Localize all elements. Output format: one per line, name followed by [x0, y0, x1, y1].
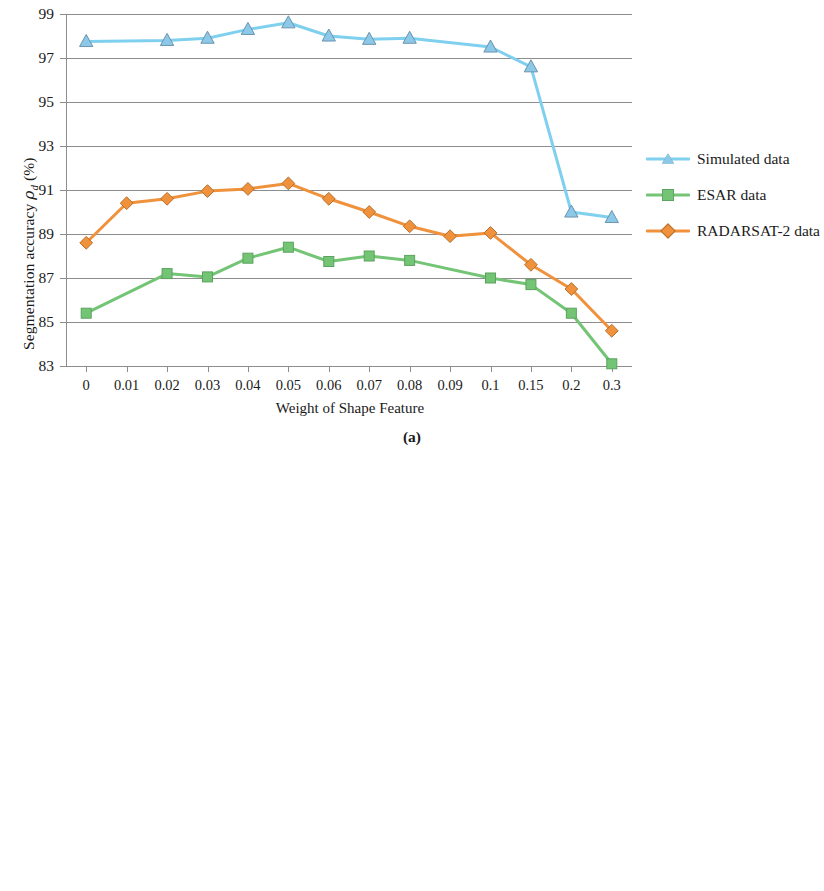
- chart-a-marker-esar: [81, 308, 91, 318]
- chart-a-y-tick-label: 91: [39, 182, 55, 198]
- chart-a-marker-esar: [283, 242, 293, 252]
- chart-a-plot-area: 83858789919395979900.010.020.030.040.050…: [66, 14, 632, 366]
- legend-item-simulated[interactable]: Simulated data: [646, 150, 820, 168]
- legend-marker-triangle-icon: [662, 154, 674, 164]
- chart-a-marker-radarsat: [201, 185, 214, 198]
- legend-item-radarsat[interactable]: RADARSAT-2 data: [646, 222, 820, 240]
- legend-label-simulated: Simulated data: [697, 150, 790, 168]
- chart-a-marker-esar: [486, 273, 496, 283]
- chart-a-x-tick-label: 0.07: [357, 378, 382, 393]
- chart-a-x-tick-label: 0.02: [154, 378, 179, 393]
- chart-a-x-tick-label: 0.05: [276, 378, 301, 393]
- chart-a-x-tick-mark: [571, 366, 572, 372]
- legend-swatch-radarsat: [646, 223, 690, 239]
- chart-a-marker-radarsat: [363, 206, 376, 219]
- chart-a-y-axis-title-text: Segmentation accuracy: [20, 200, 37, 350]
- chart-a-marker-simulated: [282, 16, 295, 28]
- chart-a-x-tick-mark: [208, 366, 209, 372]
- chart-a-x-tick-label: 0.09: [437, 378, 462, 393]
- chart-a-x-tick-label: 0.04: [235, 378, 260, 393]
- chart-a-legend: Simulated dataESAR dataRADARSAT-2 data: [646, 150, 820, 258]
- chart-a-x-tick-label: 0.2: [562, 378, 580, 393]
- chart-a-x-tick-mark: [450, 366, 451, 372]
- chart-a-marker-radarsat: [322, 192, 335, 205]
- chart-a-marker-radarsat: [242, 183, 255, 196]
- chart-a-x-tick-mark: [329, 366, 330, 372]
- chart-a-caption: (a): [0, 428, 824, 446]
- chart-a-x-tick-mark: [369, 366, 370, 372]
- chart-a-y-axis-units: (%): [20, 157, 37, 185]
- chart-a-marker-radarsat: [282, 177, 295, 190]
- chart-a-x-tick-label: 0.06: [316, 378, 341, 393]
- chart-a-y-axis-rho: ρ: [20, 191, 38, 200]
- chart-a-series-layer: [66, 14, 632, 366]
- chart-b-figure: Segmentation Accuracy ρq (%) 65707580859…: [0, 445, 824, 890]
- chart-a-x-tick-mark: [491, 366, 492, 372]
- chart-a-y-axis-title: Segmentation accuracy ρd (%): [20, 157, 40, 350]
- figure-page: Segmentation accuracy ρd (%) 83858789919…: [0, 0, 824, 891]
- chart-a-marker-radarsat: [444, 230, 457, 243]
- chart-a-marker-radarsat: [403, 220, 416, 233]
- chart-a-marker-esar: [405, 255, 415, 265]
- legend-label-radarsat: RADARSAT-2 data: [697, 222, 820, 240]
- chart-a-x-tick-mark: [288, 366, 289, 372]
- legend-item-esar[interactable]: ESAR data: [646, 186, 820, 204]
- chart-a-y-tick-label: 99: [39, 6, 55, 22]
- chart-a-x-tick-mark: [86, 366, 87, 372]
- chart-a-y-tick-label: 95: [39, 94, 55, 110]
- chart-a-marker-esar: [243, 253, 253, 263]
- chart-a-x-tick-label: 0.03: [195, 378, 220, 393]
- chart-a-x-tick-mark: [248, 366, 249, 372]
- chart-a-y-tick-label: 87: [39, 270, 55, 286]
- chart-a-y-tick-label: 83: [39, 358, 55, 374]
- legend-marker-diamond-icon: [660, 223, 676, 239]
- chart-a-marker-esar: [607, 359, 617, 369]
- chart-a-y-tick-mark: [60, 366, 66, 367]
- chart-a-marker-esar: [324, 257, 334, 267]
- chart-a-x-tick-label: 0.3: [603, 378, 621, 393]
- chart-a-y-tick-label: 89: [39, 226, 55, 242]
- legend-label-esar: ESAR data: [697, 186, 766, 204]
- chart-a-x-tick-label: 0.08: [397, 378, 422, 393]
- chart-a-x-tick-mark: [167, 366, 168, 372]
- legend-marker-square-icon: [662, 189, 674, 201]
- chart-a-line-radarsat: [86, 183, 612, 330]
- legend-swatch-esar: [646, 187, 690, 203]
- chart-a-marker-simulated: [565, 205, 578, 217]
- chart-a-gridline: [66, 366, 632, 367]
- chart-a-x-tick-label: 0.01: [114, 378, 139, 393]
- chart-a-x-axis-title: Weight of Shape Feature: [230, 400, 470, 417]
- chart-a-marker-esar: [162, 269, 172, 279]
- legend-swatch-simulated: [646, 151, 690, 167]
- chart-a-x-tick-label: 0.15: [518, 378, 543, 393]
- chart-a-y-tick-label: 85: [39, 314, 55, 330]
- chart-a-marker-esar: [364, 251, 374, 261]
- chart-a-x-tick-mark: [127, 366, 128, 372]
- chart-a-marker-esar: [203, 272, 213, 282]
- chart-a-figure: Segmentation accuracy ρd (%) 83858789919…: [0, 0, 824, 445]
- chart-a-marker-esar: [566, 308, 576, 318]
- chart-a-marker-esar: [526, 280, 536, 290]
- chart-a-line-simulated: [86, 23, 612, 218]
- chart-a-y-tick-label: 97: [39, 50, 55, 66]
- chart-a-y-tick-label: 93: [39, 138, 55, 154]
- chart-a-x-tick-label: 0: [83, 378, 90, 393]
- chart-a-marker-radarsat: [161, 192, 174, 205]
- chart-a-x-tick-mark: [531, 366, 532, 372]
- chart-a-x-tick-label: 0.1: [481, 378, 499, 393]
- chart-a-x-tick-mark: [410, 366, 411, 372]
